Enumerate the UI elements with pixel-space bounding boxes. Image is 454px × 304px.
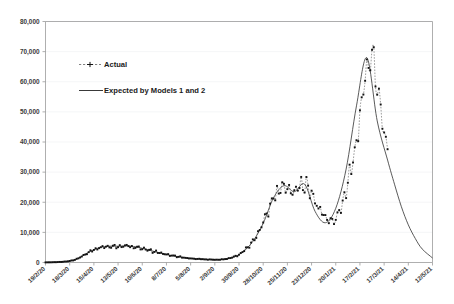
actual-data-marker (115, 247, 117, 249)
actual-data-marker (331, 218, 333, 220)
actual-data-marker (112, 245, 114, 247)
x-tick-label: 20/1/21 (316, 265, 336, 284)
actual-data-marker (323, 214, 325, 216)
x-tick-label: 28/10/20 (241, 265, 264, 287)
actual-data-marker (157, 252, 159, 254)
x-tick-label: 19/2/20 (26, 265, 46, 284)
actual-data-marker (236, 255, 238, 257)
actual-data-marker (133, 247, 135, 249)
x-tick-label: 12/5/21 (413, 265, 433, 284)
actual-data-marker (193, 258, 195, 260)
actual-data-marker (100, 246, 102, 248)
actual-data-marker (293, 189, 295, 191)
actual-data-marker (262, 222, 264, 224)
actual-data-marker (190, 257, 192, 259)
actual-data-marker (299, 187, 301, 189)
actual-data-marker (77, 257, 79, 259)
actual-data-marker (58, 261, 60, 263)
actual-data-marker (229, 257, 231, 259)
actual-data-marker (266, 213, 268, 215)
actual-data-marker (273, 198, 275, 200)
actual-data-marker (181, 257, 183, 259)
x-tick-labels: 19/2/2018/3/2015/4/2013/5/2010/6/208/7/2… (26, 263, 433, 287)
x-tick-label: 17/3/21 (365, 265, 385, 284)
actual-data-marker (195, 258, 197, 260)
actual-data-marker (126, 244, 128, 246)
actual-data-marker (297, 190, 299, 192)
actual-data-marker (134, 247, 136, 249)
legend-label-actual: Actual (104, 60, 127, 69)
actual-data-marker (141, 248, 143, 250)
actual-data-marker (371, 49, 373, 51)
actual-data-marker (257, 230, 259, 232)
actual-data-marker (45, 261, 47, 263)
actual-data-marker (188, 258, 190, 260)
actual-data-marker (171, 255, 173, 257)
actual-data-marker (286, 188, 288, 190)
actual-data-marker (197, 258, 199, 260)
actual-data-marker (354, 146, 356, 148)
actual-data-marker (378, 88, 380, 90)
actual-data-marker (333, 223, 335, 225)
actual-data-marker (295, 186, 297, 188)
actual-data-marker (385, 136, 387, 138)
actual-data-marker (152, 252, 154, 254)
actual-data-marker (356, 139, 358, 141)
actual-data-marker (318, 208, 320, 210)
actual-data-marker (312, 193, 314, 195)
actual-data-marker (219, 259, 221, 261)
actual-data-marker (121, 246, 123, 248)
actual-data-marker (267, 216, 269, 218)
actual-data-marker (117, 246, 119, 248)
actual-data-marker (205, 258, 207, 260)
actual-data-marker (145, 249, 147, 251)
actual-data-marker (342, 200, 344, 202)
x-tick-label: 13/5/20 (99, 265, 119, 284)
chart-container: 010,00020,00030,00040,00050,00060,00070,… (0, 0, 454, 304)
actual-data-marker (281, 181, 283, 183)
actual-data-marker (359, 109, 361, 111)
actual-data-marker (57, 261, 59, 263)
y-tick-label: 40,000 (20, 138, 40, 146)
actual-data-marker (319, 206, 321, 208)
actual-data-marker (95, 247, 97, 249)
actual-data-marker (179, 255, 181, 257)
x-tick-label: 18/3/20 (50, 265, 70, 284)
actual-data-marker (228, 257, 230, 259)
actual-data-marker (103, 247, 105, 249)
y-tick-label: 50,000 (20, 108, 40, 116)
series-actual (45, 44, 389, 263)
actual-data-marker (276, 185, 278, 187)
actual-data-marker (223, 258, 225, 260)
actual-data-marker (261, 226, 263, 228)
actual-data-marker (122, 246, 124, 248)
x-tick-label: 8/7/20 (150, 265, 168, 282)
actual-data-marker (55, 261, 57, 263)
actual-data-marker (202, 258, 204, 260)
actual-data-marker (221, 258, 223, 260)
actual-data-marker (159, 252, 161, 254)
actual-data-marker (330, 217, 332, 219)
actual-data-marker (290, 192, 292, 194)
actual-data-marker (178, 256, 180, 258)
actual-data-marker (383, 132, 385, 134)
actual-data-marker (191, 258, 193, 260)
actual-data-marker (226, 258, 228, 260)
actual-data-marker (198, 258, 200, 260)
actual-data-marker (62, 261, 64, 263)
actual-data-marker (340, 212, 342, 214)
actual-data-marker (186, 257, 188, 259)
actual-data-marker (350, 173, 352, 175)
actual-data-marker (138, 246, 140, 248)
actual-data-marker (79, 257, 81, 259)
actual-data-marker (376, 94, 378, 96)
actual-data-marker (292, 194, 294, 196)
actual-data-marker (305, 176, 307, 178)
actual-data-marker (278, 193, 280, 195)
actual-data-marker (343, 191, 345, 193)
actual-data-marker (285, 192, 287, 194)
legend-label-expected: Expected by Models 1 and 2 (104, 86, 205, 95)
actual-data-marker (240, 252, 242, 254)
actual-data-marker (89, 249, 91, 251)
actual-data-marker (248, 247, 250, 249)
